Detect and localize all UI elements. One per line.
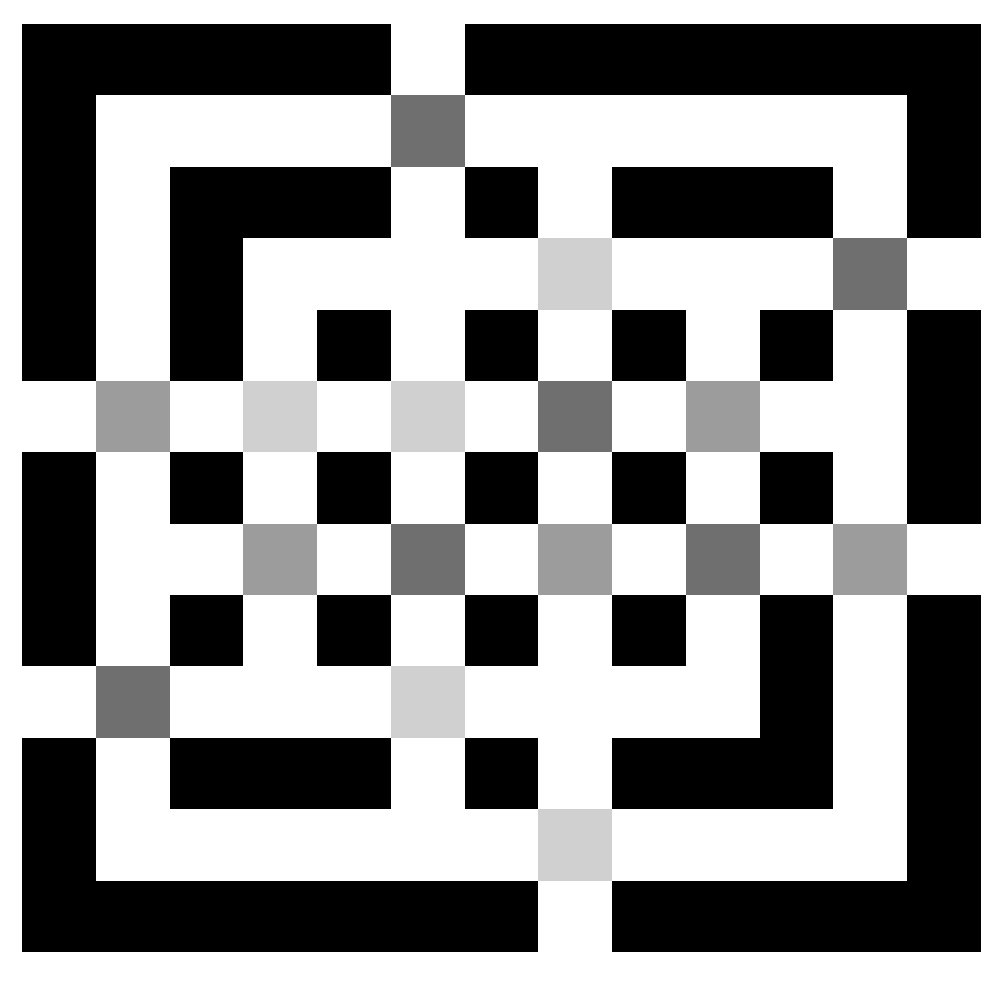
cell-path[interactable] (907, 524, 981, 595)
cell-wall (760, 310, 834, 381)
cell-path[interactable] (243, 595, 317, 666)
cell-path[interactable] (96, 595, 170, 666)
cell-path[interactable] (465, 524, 539, 595)
cell-dark-grey-tile[interactable] (538, 381, 612, 452)
cell-path[interactable] (833, 381, 907, 452)
cell-path[interactable] (96, 452, 170, 523)
cell-path[interactable] (243, 310, 317, 381)
cell-path[interactable] (243, 95, 317, 166)
cell-path[interactable] (96, 738, 170, 809)
cell-path[interactable] (317, 238, 391, 309)
cell-path[interactable] (96, 524, 170, 595)
cell-path[interactable] (686, 809, 760, 880)
cell-path[interactable] (465, 809, 539, 880)
cell-wall (833, 881, 907, 952)
cell-path[interactable] (317, 809, 391, 880)
cell-path[interactable] (833, 310, 907, 381)
cell-path[interactable] (538, 595, 612, 666)
cell-path[interactable] (760, 95, 834, 166)
cell-path[interactable] (96, 167, 170, 238)
cell-path[interactable] (612, 666, 686, 737)
cell-path[interactable] (243, 666, 317, 737)
cell-path[interactable] (170, 809, 244, 880)
cell-path[interactable] (686, 666, 760, 737)
cell-dark-grey-tile[interactable] (391, 95, 465, 166)
cell-path[interactable] (22, 381, 96, 452)
cell-path[interactable] (538, 452, 612, 523)
cell-path[interactable] (317, 95, 391, 166)
cell-path[interactable] (243, 452, 317, 523)
cell-path[interactable] (760, 809, 834, 880)
cell-wall (22, 452, 96, 523)
cell-path[interactable] (96, 310, 170, 381)
cell-path[interactable] (686, 595, 760, 666)
cell-path[interactable] (538, 881, 612, 952)
cell-path[interactable] (96, 809, 170, 880)
cell-path[interactable] (96, 238, 170, 309)
cell-path[interactable] (391, 238, 465, 309)
cell-dark-grey-tile[interactable] (96, 666, 170, 737)
cell-path[interactable] (686, 95, 760, 166)
cell-light-grey-tile[interactable] (391, 381, 465, 452)
cell-path[interactable] (538, 738, 612, 809)
cell-path[interactable] (170, 524, 244, 595)
cell-path[interactable] (22, 666, 96, 737)
cell-path[interactable] (612, 524, 686, 595)
cell-light-grey-tile[interactable] (243, 381, 317, 452)
cell-path[interactable] (465, 238, 539, 309)
cell-path[interactable] (760, 238, 834, 309)
cell-path[interactable] (243, 238, 317, 309)
cell-path[interactable] (538, 167, 612, 238)
cell-path[interactable] (833, 809, 907, 880)
cell-medium-grey-tile[interactable] (96, 381, 170, 452)
cell-path[interactable] (612, 238, 686, 309)
cell-path[interactable] (170, 666, 244, 737)
cell-path[interactable] (760, 524, 834, 595)
cell-dark-grey-tile[interactable] (391, 524, 465, 595)
cell-path[interactable] (391, 310, 465, 381)
cell-path[interactable] (170, 95, 244, 166)
cell-path[interactable] (317, 381, 391, 452)
cell-dark-grey-tile[interactable] (686, 524, 760, 595)
cell-path[interactable] (833, 666, 907, 737)
cell-path[interactable] (317, 666, 391, 737)
cell-path[interactable] (96, 95, 170, 166)
cell-path[interactable] (833, 452, 907, 523)
cell-path[interactable] (391, 452, 465, 523)
cell-path[interactable] (538, 666, 612, 737)
cell-path[interactable] (317, 524, 391, 595)
cell-path[interactable] (391, 738, 465, 809)
cell-path[interactable] (391, 167, 465, 238)
cell-path[interactable] (391, 595, 465, 666)
cell-path[interactable] (465, 381, 539, 452)
cell-path[interactable] (391, 24, 465, 95)
cell-path[interactable] (243, 809, 317, 880)
cell-medium-grey-tile[interactable] (243, 524, 317, 595)
cell-path[interactable] (170, 381, 244, 452)
cell-path[interactable] (612, 95, 686, 166)
cell-path[interactable] (612, 381, 686, 452)
cell-path[interactable] (465, 666, 539, 737)
cell-light-grey-tile[interactable] (538, 809, 612, 880)
cell-path[interactable] (686, 238, 760, 309)
cell-path[interactable] (465, 95, 539, 166)
cell-wall (612, 24, 686, 95)
cell-medium-grey-tile[interactable] (538, 524, 612, 595)
cell-path[interactable] (612, 809, 686, 880)
cell-path[interactable] (833, 595, 907, 666)
cell-path[interactable] (833, 95, 907, 166)
cell-path[interactable] (760, 381, 834, 452)
cell-path[interactable] (686, 310, 760, 381)
cell-light-grey-tile[interactable] (538, 238, 612, 309)
cell-dark-grey-tile[interactable] (833, 238, 907, 309)
cell-path[interactable] (833, 738, 907, 809)
cell-path[interactable] (833, 167, 907, 238)
cell-path[interactable] (686, 452, 760, 523)
cell-path[interactable] (391, 809, 465, 880)
cell-path[interactable] (907, 238, 981, 309)
cell-medium-grey-tile[interactable] (833, 524, 907, 595)
cell-path[interactable] (538, 95, 612, 166)
cell-medium-grey-tile[interactable] (686, 381, 760, 452)
cell-light-grey-tile[interactable] (391, 666, 465, 737)
cell-path[interactable] (538, 310, 612, 381)
